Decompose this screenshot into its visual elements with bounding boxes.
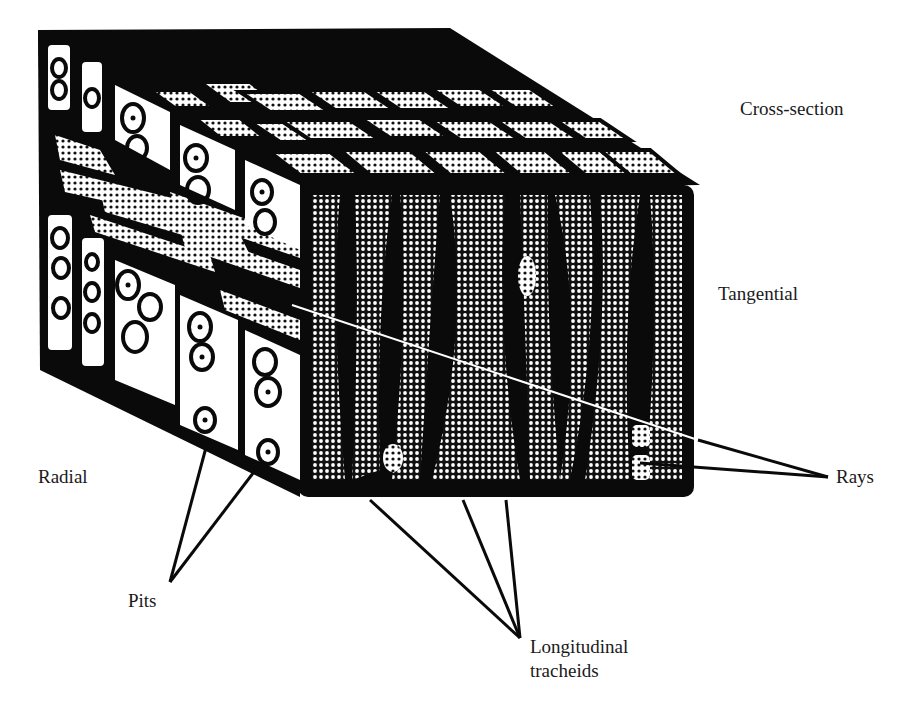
label-longitudinal-tracheids-1: Longitudinal — [530, 636, 628, 658]
label-tangential: Tangential — [718, 283, 798, 305]
tangential-face — [298, 185, 694, 497]
label-longitudinal-tracheids-2: tracheids — [530, 660, 599, 682]
label-rays: Rays — [836, 466, 874, 488]
label-radial: Radial — [38, 466, 88, 488]
label-pits: Pits — [128, 590, 157, 612]
label-cross-section: Cross-section — [740, 98, 843, 120]
